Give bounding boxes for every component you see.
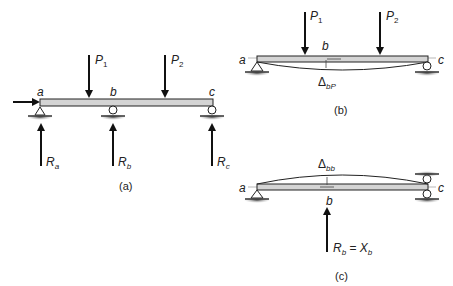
redundant-label: Rb = Xb [333, 241, 373, 257]
load-label-p2: P [171, 53, 179, 67]
deflection-label-bp: Δ [318, 75, 326, 89]
reaction-label-ra: R [46, 155, 55, 169]
reaction-label-rb: R [118, 155, 127, 169]
deflected-shape-c [257, 175, 428, 184]
caption-c: (c) [335, 270, 348, 282]
beam-a [40, 99, 213, 106]
panel-c: a b c Δbb Rb = Xb (c) [239, 157, 444, 282]
svg-text:Rc: Rc [217, 155, 230, 171]
point-label-a: a [239, 181, 246, 195]
svg-text:Rb: Rb [118, 155, 132, 171]
svg-text:P1: P1 [310, 9, 323, 25]
load-label-p2: P [386, 9, 394, 23]
deflected-shape-b [257, 62, 428, 70]
load-label-p1: P [310, 9, 318, 23]
svg-text:P2: P2 [386, 9, 399, 25]
panel-a: P1 P2 a b c Ra Rb Rc (a) [13, 53, 230, 192]
reaction-label-rc: R [217, 155, 226, 169]
point-label-b: b [326, 194, 333, 208]
pin-support-icon [35, 107, 45, 115]
roller-support-icon [423, 190, 431, 198]
svg-text:P2: P2 [171, 53, 184, 69]
point-label-c: c [438, 53, 444, 67]
svg-text:P1: P1 [95, 53, 108, 69]
pin-support-icon [251, 62, 263, 71]
point-label-a: a [239, 53, 246, 67]
roller-support-icon [109, 106, 117, 114]
point-label-a: a [37, 85, 44, 99]
point-label-b: b [322, 39, 329, 53]
point-label-b: b [110, 85, 117, 99]
panel-b: P1 P2 a b c ΔbP (b) [239, 9, 444, 116]
beam-b [257, 56, 428, 62]
beam-c [257, 184, 428, 190]
roller-support-icon [423, 62, 431, 70]
beam-diagram: P1 P2 a b c Ra Rb Rc (a) P1 P2 a b c [0, 0, 453, 286]
deflection-label-bb: Δ [318, 157, 326, 171]
point-label-c: c [438, 181, 444, 195]
roller-support-icon [208, 106, 216, 114]
caption-b: (b) [334, 104, 347, 116]
svg-text:Δbb: Δbb [318, 157, 335, 173]
svg-text:ΔbP: ΔbP [318, 75, 336, 91]
caption-a: (a) [119, 180, 132, 192]
pin-support-icon [251, 190, 263, 198]
point-label-c: c [209, 85, 215, 99]
load-label-p1: P [95, 53, 103, 67]
svg-text:Ra: Ra [46, 155, 60, 171]
